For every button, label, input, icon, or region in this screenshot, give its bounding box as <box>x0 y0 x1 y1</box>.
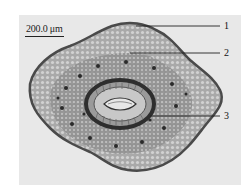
callout-2: 2 <box>224 47 229 58</box>
callout-1: 1 <box>224 20 229 31</box>
scale-bar <box>25 36 64 37</box>
scale-bar-label: 200.0 μm <box>26 23 63 34</box>
callout-3: 3 <box>224 110 229 121</box>
